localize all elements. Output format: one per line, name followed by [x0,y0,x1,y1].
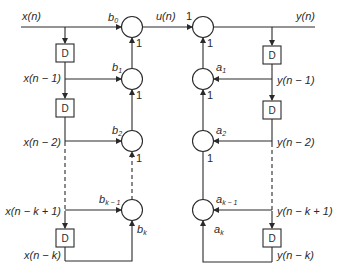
feedback-section: D D D y(n) y(n − 1) y(n − 2) y(n − k + 1… [193,10,333,262]
coef-label-b0: b0 [108,11,118,24]
signal-label-u-n: u(n) [156,10,176,22]
signal-label-y-n-k: y(n − k) [276,249,314,261]
coef-label-b2: b2 [112,124,122,137]
sum-node-a1 [193,69,214,90]
sum-node-bk1 [122,200,143,221]
gain-label: 1 [136,37,142,49]
gain-label: 1 [207,37,213,49]
sum-node-a2 [193,131,214,152]
delay-label: D [268,233,275,244]
coef-label-bk1: bk − 1 [99,193,121,206]
coef-label-bk: bk [137,223,147,236]
sum-node-b2 [122,131,143,152]
direct-form-filter-diagram: D D D x(n) x(n − 1) x(n − 2) x(n − k + 1… [0,0,341,277]
delay-label: D [268,105,275,116]
tap-wire-bk [65,221,132,261]
coef-label-a1: a1 [216,61,226,74]
gain-label: 1 [136,152,142,164]
signal-label-y-n-k-1: y(n − k + 1) [276,205,333,217]
signal-label-x-n-2: x(n − 2) [22,136,61,148]
signal-label-x-n-1: x(n − 1) [22,72,61,84]
coef-label-b1: b1 [112,61,122,74]
coef-label-ak1: ak − 1 [216,193,238,206]
signal-label-x-n: x(n) [21,10,41,22]
signal-label-y-n-1: y(n − 1) [276,74,315,86]
delay-label: D [61,48,68,59]
u-gain-label: 1 [186,10,192,22]
signal-label-y-n: y(n) [295,10,315,22]
feedforward-section: D D D x(n) x(n − 1) x(n − 2) x(n − k + 1… [4,10,147,261]
sum-node-output [193,17,214,38]
delay-label: D [61,103,68,114]
sum-node-b1 [122,69,143,90]
intermediate-signal: u(n) 1 [143,10,193,27]
signal-label-y-n-2: y(n − 2) [276,136,315,148]
delay-label: D [268,50,275,61]
coef-label-a2: a2 [216,124,226,137]
sum-node-b0 [122,17,143,38]
signal-label-x-n-k-1: x(n − k + 1) [4,205,61,217]
signal-label-x-n-k: x(n − k) [23,249,61,261]
sum-node-ak1 [193,200,214,221]
coef-label-ak: ak [214,223,224,236]
gain-label: 1 [207,89,213,101]
delay-label: D [61,233,68,244]
gain-label: 1 [207,152,213,164]
gain-label: 1 [136,89,142,101]
